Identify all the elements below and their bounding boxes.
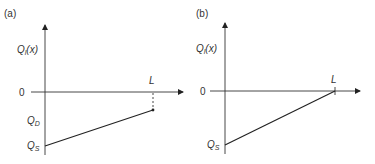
panel-a-line: [45, 110, 153, 146]
panel-b-y-label: Ql(x): [196, 43, 217, 55]
panel-b-tag: (b): [196, 8, 208, 19]
panel-a-L-label: L: [149, 75, 155, 86]
panel-b-origin-label: 0: [200, 86, 206, 97]
panel-a-QS-label: QS: [27, 140, 40, 152]
panel-b-QS-label: QS: [207, 139, 220, 151]
panel-a-QD-label: QD: [27, 115, 40, 127]
panel-b-L-label: L: [331, 74, 337, 85]
panel-b-line: [225, 91, 335, 145]
panel-a: (a) Ql(x) 0 L QD QS: [4, 8, 183, 155]
panel-a-tag: (a): [4, 8, 16, 19]
panel-b: (b) Ql(x) 0 L QS: [196, 8, 360, 154]
panel-a-y-label: Ql(x): [17, 44, 38, 56]
diagram-canvas: (a) Ql(x) 0 L QD QS (b) Ql(x) 0 L QS: [0, 0, 375, 164]
panel-a-origin-label: 0: [19, 87, 25, 98]
